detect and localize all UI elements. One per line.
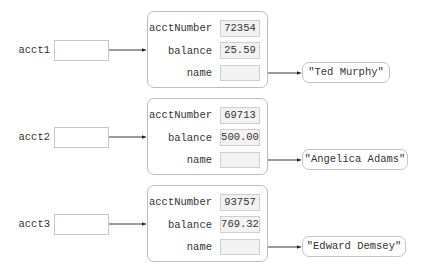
field-label: name xyxy=(142,154,212,166)
field-label: acctNumber xyxy=(142,196,212,208)
string-object: "Edward Demsey" xyxy=(302,236,406,257)
field-value-reference xyxy=(220,152,260,168)
field-value-reference xyxy=(220,65,260,81)
field-label: name xyxy=(142,67,212,79)
field-label: acctNumber xyxy=(142,109,212,121)
string-object: "Angelica Adams" xyxy=(302,149,408,170)
field-value-reference xyxy=(220,239,260,255)
field-label: balance xyxy=(142,132,212,144)
field-label: acctNumber xyxy=(142,22,212,34)
reference-box xyxy=(54,40,109,61)
string-object: "Ted Murphy" xyxy=(302,62,390,83)
field-label: name xyxy=(142,241,212,253)
reference-box xyxy=(54,214,109,235)
reference-label: acct1 xyxy=(10,44,50,56)
reference-box xyxy=(54,127,109,148)
field-value: 72354 xyxy=(220,20,260,37)
reference-label: acct2 xyxy=(10,131,50,143)
field-label: balance xyxy=(142,219,212,231)
field-value: 25.59 xyxy=(220,42,260,59)
diagram-canvas: acct1 acctNumber 72354 balance 25.59 nam… xyxy=(0,0,426,276)
field-label: balance xyxy=(142,45,212,57)
field-value: 500.00 xyxy=(220,129,260,146)
reference-label: acct3 xyxy=(10,218,50,230)
field-value: 769.32 xyxy=(220,216,260,233)
field-value: 69713 xyxy=(220,107,260,124)
field-value: 93757 xyxy=(220,194,260,211)
